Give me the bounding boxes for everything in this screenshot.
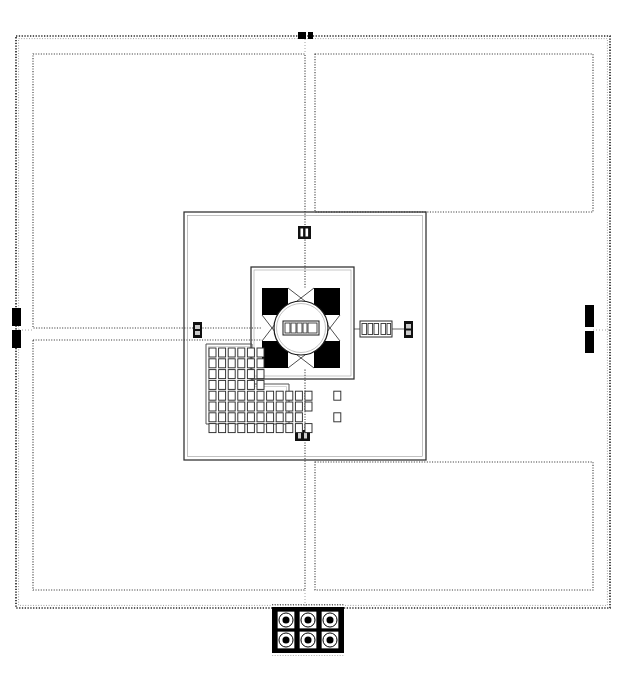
pillar-cell xyxy=(257,413,264,422)
gate-north-outer xyxy=(298,32,313,39)
pillar-cell xyxy=(219,359,226,368)
pillar-cell xyxy=(238,391,245,400)
pillar-cell xyxy=(276,413,283,422)
pillar-cell xyxy=(286,402,293,411)
column-shaft xyxy=(304,616,311,623)
pillar-cell xyxy=(228,370,235,379)
pillar-cell xyxy=(276,424,283,433)
pillar-cell xyxy=(267,391,274,400)
pillar-cell xyxy=(257,348,264,357)
pillar-cell xyxy=(209,391,216,400)
pillar-cell xyxy=(228,359,235,368)
column-shaft xyxy=(326,616,333,623)
pillar-cell xyxy=(238,359,245,368)
pillar-cell xyxy=(257,391,264,400)
architectural-plan-canvas: Mandala Temple Complex — Ground Plan arc… xyxy=(0,0,626,680)
pillar-cell xyxy=(247,402,254,411)
column-shaft xyxy=(326,636,333,643)
pillar-cell xyxy=(295,391,302,400)
pillar-cell xyxy=(219,402,226,411)
pillar-cell xyxy=(257,424,264,433)
pillar-cell xyxy=(238,348,245,357)
gate-west-middle xyxy=(193,322,202,338)
detail-block-column-bases xyxy=(272,605,344,656)
pillar-cell xyxy=(305,402,312,411)
pillar-cell xyxy=(228,402,235,411)
pillar-cell xyxy=(209,370,216,379)
pillar-cell xyxy=(276,391,283,400)
pillar-cell xyxy=(276,402,283,411)
pillar-cell xyxy=(228,380,235,389)
pillar-cell xyxy=(219,391,226,400)
pillar-cell xyxy=(286,413,293,422)
column-shaft xyxy=(304,636,311,643)
pillar-cell xyxy=(247,359,254,368)
pillar-cell xyxy=(219,380,226,389)
column-shaft xyxy=(282,616,289,623)
pillar-cell xyxy=(247,348,254,357)
gate-east-middle xyxy=(404,321,413,338)
pillar-cell xyxy=(247,370,254,379)
pillar-cell xyxy=(267,424,274,433)
pillar-cell xyxy=(228,348,235,357)
pillar-cell xyxy=(228,391,235,400)
pillar-cell xyxy=(305,391,312,400)
pillar-cell xyxy=(247,424,254,433)
pillar-cell-outlier xyxy=(334,391,341,400)
plan-drawing xyxy=(0,0,626,680)
gate-north-middle xyxy=(298,226,311,239)
pillar-cell xyxy=(257,359,264,368)
pillar-cell xyxy=(228,424,235,433)
pillar-cell xyxy=(305,424,312,433)
pillar-cell xyxy=(286,391,293,400)
pillar-cell xyxy=(228,413,235,422)
pillar-cell xyxy=(247,380,254,389)
pillar-cell xyxy=(238,424,245,433)
pillar-cell xyxy=(257,402,264,411)
pillar-cell xyxy=(219,424,226,433)
pillar-cell xyxy=(209,359,216,368)
garbhagriha-shrine xyxy=(283,321,319,335)
pillar-cell xyxy=(257,370,264,379)
pillar-cell xyxy=(247,413,254,422)
pillar-cell xyxy=(209,348,216,357)
pillar-cell xyxy=(267,402,274,411)
pillar-cell xyxy=(247,391,254,400)
pillar-cell xyxy=(257,380,264,389)
pillar-cell xyxy=(238,380,245,389)
pillar-cell xyxy=(295,402,302,411)
column-shaft xyxy=(282,636,289,643)
pillar-cell xyxy=(295,413,302,422)
pillar-cell xyxy=(209,380,216,389)
pillar-cell xyxy=(267,413,274,422)
pillar-cell xyxy=(238,413,245,422)
pillar-cell xyxy=(209,424,216,433)
pillar-cell xyxy=(219,370,226,379)
pillar-cell xyxy=(286,424,293,433)
pillar-cell xyxy=(219,348,226,357)
pillar-cell-outlier xyxy=(334,413,341,422)
pillar-cell xyxy=(219,413,226,422)
pillar-cell xyxy=(209,402,216,411)
pillar-cell xyxy=(238,402,245,411)
pillar-cell xyxy=(295,424,302,433)
pillar-cell xyxy=(238,370,245,379)
pillar-cell xyxy=(209,413,216,422)
